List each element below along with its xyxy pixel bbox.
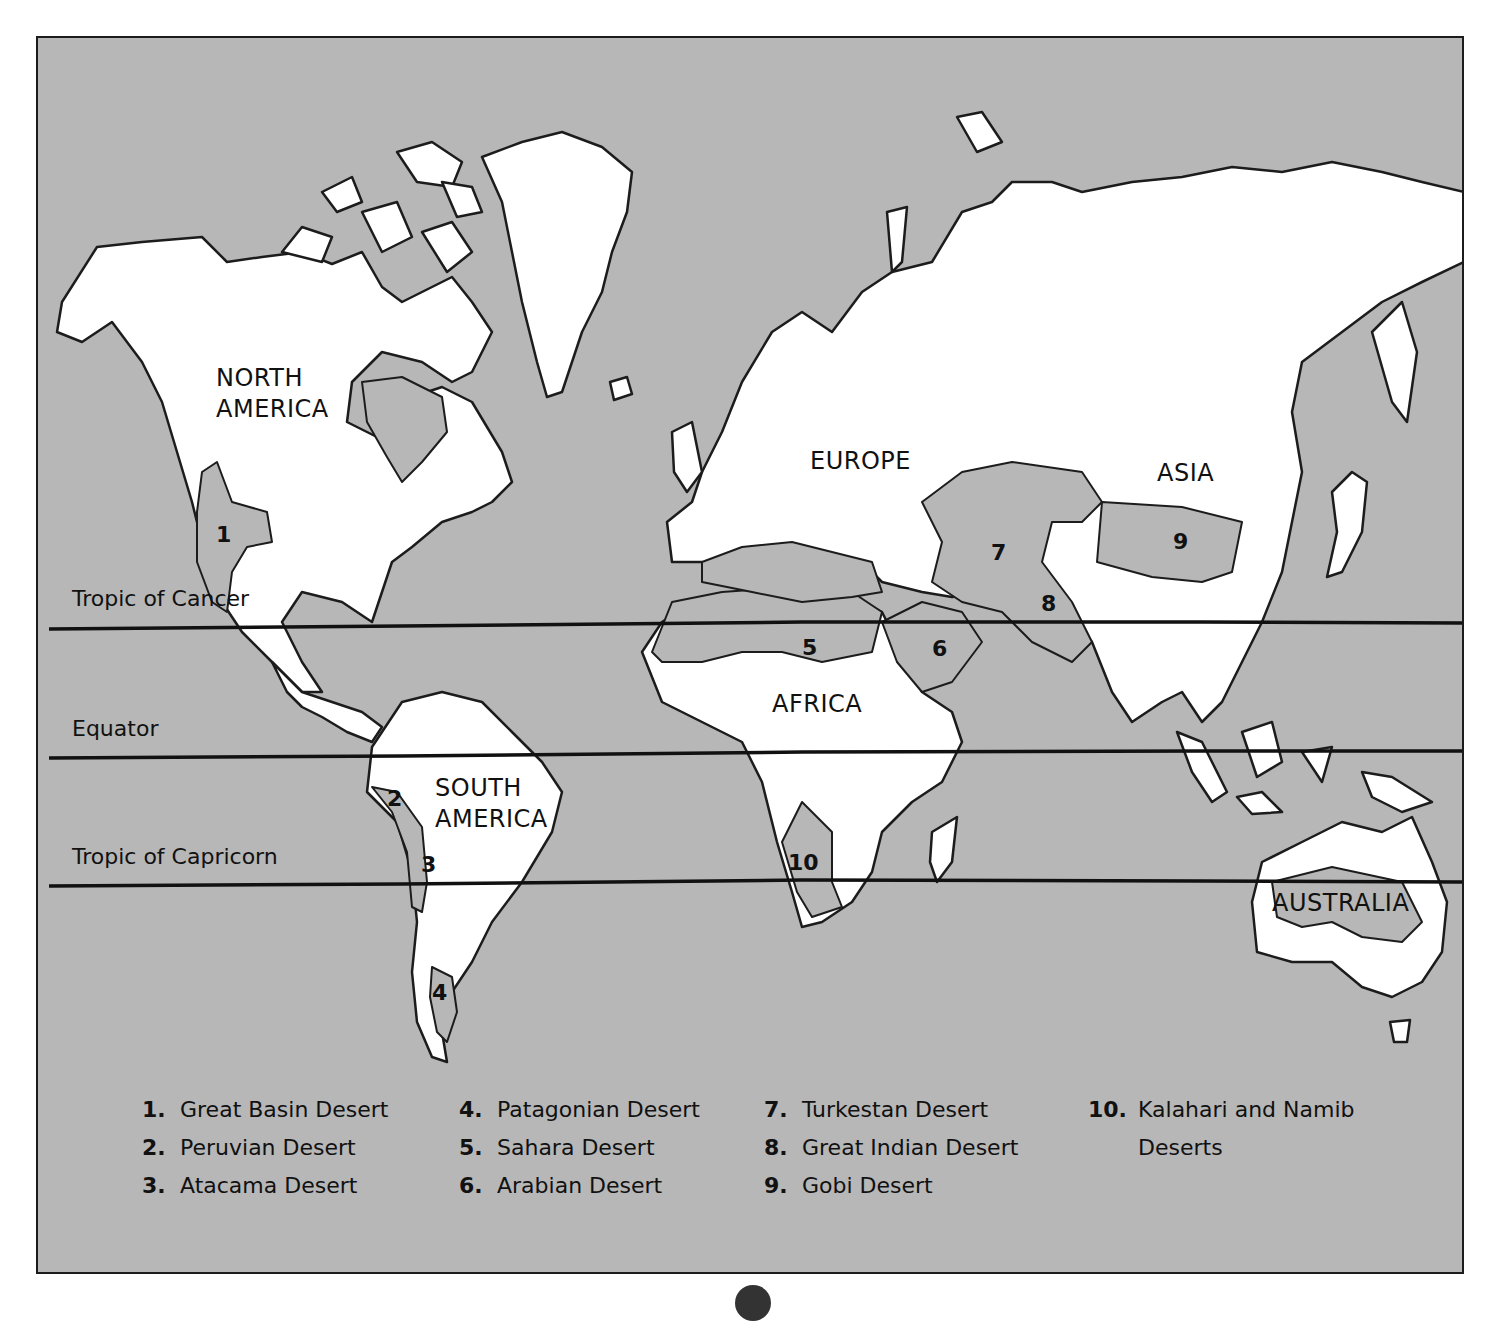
south-america-landmass <box>367 692 562 1062</box>
legend-item: 9.Gobi Desert <box>764 1173 1018 1211</box>
continent-label-europe: EUROPE <box>810 446 911 477</box>
tropic-of-capricorn-label: Tropic of Capricorn <box>72 844 278 869</box>
continent-label-north-america: NORTH AMERICA <box>216 363 329 425</box>
legend-item: 4.Patagonian Desert <box>459 1097 700 1135</box>
legend-item: 2.Peruvian Desert <box>142 1135 388 1173</box>
tropic-of-capricorn-line <box>49 880 1464 886</box>
desert-marker-9: 9 <box>1173 529 1188 554</box>
desert-marker-6: 6 <box>932 636 947 661</box>
greenland-landmass <box>482 132 632 397</box>
legend-item: 1.Great Basin Desert <box>142 1097 388 1135</box>
world-deserts-map: Tropic of Cancer Equator Tropic of Capri… <box>36 36 1464 1274</box>
equator-label: Equator <box>72 716 158 741</box>
continent-label-south-america: SOUTH AMERICA <box>435 773 548 835</box>
legend-item: 7.Turkestan Desert <box>764 1097 1018 1135</box>
legend-item: 5.Sahara Desert <box>459 1135 700 1173</box>
desert-marker-2: 2 <box>387 786 402 811</box>
continent-label-australia: AUSTRALIA <box>1272 888 1409 919</box>
desert-marker-3: 3 <box>421 852 436 877</box>
legend-column-4: 10.Kalahari and Namib Deserts <box>1088 1097 1355 1173</box>
page-marker <box>735 1285 771 1321</box>
map-graphic <box>38 38 1464 1274</box>
continent-label-asia: ASIA <box>1157 458 1214 489</box>
legend-item: 3.Atacama Desert <box>142 1173 388 1211</box>
north-america-landmass <box>57 237 512 692</box>
tropic-of-cancer-label: Tropic of Cancer <box>72 586 249 611</box>
legend-item: 8.Great Indian Desert <box>764 1135 1018 1173</box>
desert-marker-8: 8 <box>1041 591 1056 616</box>
legend-column-3: 7.Turkestan Desert 8.Great Indian Desert… <box>764 1097 1018 1211</box>
desert-marker-5: 5 <box>802 635 817 660</box>
legend-column-1: 1.Great Basin Desert 2.Peruvian Desert 3… <box>142 1097 388 1211</box>
desert-marker-10: 10 <box>788 850 819 875</box>
legend-column-2: 4.Patagonian Desert 5.Sahara Desert 6.Ar… <box>459 1097 700 1211</box>
desert-marker-4: 4 <box>432 980 447 1005</box>
legend-item-continued: Deserts <box>1088 1135 1355 1173</box>
desert-marker-7: 7 <box>991 540 1006 565</box>
legend-item: 6.Arabian Desert <box>459 1173 700 1211</box>
legend-item: 10.Kalahari and Namib <box>1088 1097 1355 1135</box>
continent-label-africa: AFRICA <box>772 689 862 720</box>
desert-marker-1: 1 <box>216 522 231 547</box>
